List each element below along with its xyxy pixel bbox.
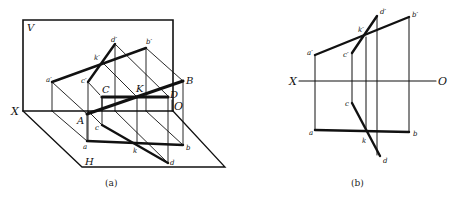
figure-a: V H X O A B C D K a′ b′ c′ d′ k′ a b c d… — [10, 20, 225, 188]
label-D: D — [169, 89, 178, 100]
label-K: K — [135, 83, 144, 94]
figure-b: X O a′ b′ c′ d′ k′ a b c d k (b) — [288, 8, 447, 188]
projection-figures: V H X O A B C D K a′ b′ c′ d′ k′ a b c d… — [0, 0, 458, 197]
label-c-a: c — [95, 124, 99, 132]
label-o-b: O — [438, 75, 447, 88]
label-k-prime-b: k′ — [358, 26, 364, 34]
label-c-prime-a: c′ — [81, 77, 87, 85]
label-b-prime-a: b′ — [146, 38, 152, 46]
label-k-a: k — [133, 147, 137, 155]
label-d-prime-a: d′ — [111, 36, 117, 44]
label-o-a: O — [174, 100, 183, 113]
label-x-a: X — [10, 105, 20, 118]
label-b-a: b — [186, 144, 191, 152]
label-C: C — [102, 84, 110, 95]
caption-a: (a) — [105, 178, 117, 188]
label-d-a: d — [170, 159, 175, 167]
label-x-b: X — [288, 75, 298, 88]
label-c-prime-b: c′ — [343, 51, 349, 59]
label-B: B — [185, 75, 193, 86]
label-v-plane: V — [27, 22, 36, 33]
label-k-b: k — [362, 137, 366, 145]
heavy-lines-b — [315, 16, 409, 156]
label-a-b: a — [309, 129, 313, 137]
label-a-prime-a: a′ — [46, 76, 52, 84]
label-d-prime-b: d′ — [380, 8, 386, 16]
label-h-plane: H — [84, 156, 94, 167]
label-a-a: a — [83, 143, 87, 151]
caption-b: (b) — [351, 178, 364, 188]
label-b-b: b — [413, 130, 418, 138]
label-d-b: d — [383, 157, 388, 165]
label-c-b: c — [345, 100, 349, 108]
label-A: A — [76, 115, 84, 126]
label-b-prime-b: b′ — [412, 11, 418, 19]
label-a-prime-b: a′ — [307, 49, 313, 57]
heavy-lines-a — [52, 44, 183, 163]
label-k-prime-a: k′ — [94, 54, 100, 62]
